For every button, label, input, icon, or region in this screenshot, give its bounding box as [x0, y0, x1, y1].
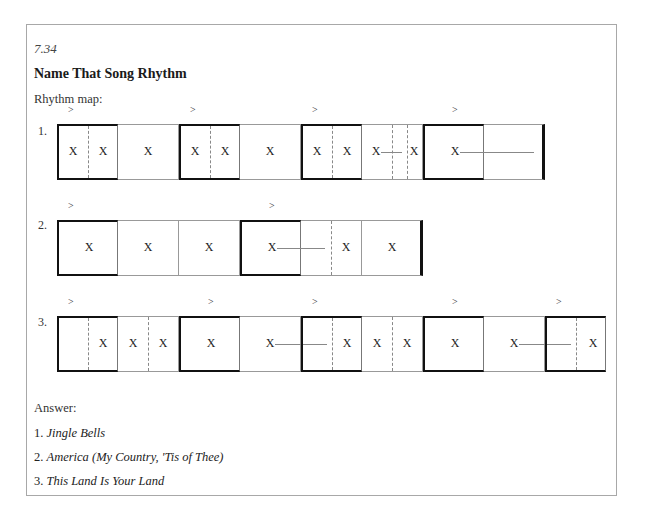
subdivision-line [88, 126, 89, 178]
beat-box: > X [240, 220, 301, 276]
beat-mark: X [372, 144, 381, 159]
beat-mark: X [589, 336, 598, 351]
subdivision-line [331, 221, 332, 275]
beat-box: X [301, 220, 362, 276]
beat-box: X [118, 220, 179, 276]
beat-mark: X [99, 336, 108, 351]
beat-box: > X X [179, 124, 240, 180]
accent-mark: > [68, 104, 74, 115]
exercise-number: 7.34 [34, 41, 57, 57]
beat-box: X [240, 124, 301, 180]
tie-line [519, 344, 545, 345]
tie-line [301, 248, 325, 249]
answer-1: 1. Jingle Bells [34, 426, 105, 441]
beat-box: > X X [301, 124, 362, 180]
beat-mark: X [85, 240, 94, 255]
answer-song: This Land Is Your Land [47, 474, 165, 488]
tie-line [547, 344, 571, 345]
beat-mark: X [313, 144, 322, 159]
subdivision-line [210, 126, 211, 178]
answer-song: America (My Country, 'Tis of Thee) [47, 450, 224, 464]
beat-box: X [118, 124, 179, 180]
answer-number: 3. [34, 474, 43, 488]
beat-mark: X [266, 336, 275, 351]
beat-box: X X [362, 124, 423, 180]
beat-box: > X [423, 124, 484, 180]
beat-box: X X [118, 316, 179, 372]
beat-mark: X [451, 336, 460, 351]
beat-mark: X [403, 336, 412, 351]
rhythm-row-2: > X X X > X X X [57, 220, 423, 276]
accent-mark: > [68, 296, 74, 307]
subdivision-line [392, 317, 393, 371]
beat-mark: X [343, 144, 352, 159]
beat-box: > X X [57, 124, 118, 180]
beat-mark: X [99, 144, 108, 159]
exercise-title: Name That Song Rhythm [34, 66, 187, 82]
beat-mark: X [221, 144, 230, 159]
accent-mark: > [68, 200, 74, 211]
accent-mark: > [452, 296, 458, 307]
tie-line [484, 152, 534, 153]
beat-box: > X [545, 316, 606, 372]
row-2-number: 2. [38, 218, 47, 233]
subdivision-line [148, 317, 149, 371]
answer-number: 1. [34, 426, 43, 440]
beat-box: X [362, 220, 423, 276]
answer-2: 2. America (My Country, 'Tis of Thee) [34, 450, 223, 465]
beat-box: X [484, 316, 545, 372]
tie-line [460, 152, 486, 153]
accent-mark: > [190, 104, 196, 115]
beat-mark: X [410, 144, 419, 159]
beat-mark: X [191, 144, 200, 159]
beat-mark: X [159, 336, 168, 351]
subdivision-line [332, 318, 333, 370]
beat-box: X X [362, 316, 423, 372]
beat-box: > X [301, 316, 362, 372]
beat-mark: X [144, 240, 153, 255]
accent-mark: > [269, 200, 275, 211]
answer-3: 3. This Land Is Your Land [34, 474, 164, 489]
beat-mark: X [144, 144, 153, 159]
tie-line [303, 344, 327, 345]
rhythm-row-3: > X X X > X X > X X X > X X > X [57, 316, 606, 372]
accent-mark: > [556, 296, 562, 307]
answer-song: Jingle Bells [47, 426, 106, 440]
subdivision-line [407, 125, 408, 179]
beat-mark: X [268, 240, 277, 255]
beat-box: > X [179, 316, 240, 372]
beat-box: > X [423, 316, 484, 372]
row-1-number: 1. [38, 124, 47, 139]
beat-mark: X [510, 336, 519, 351]
rhythm-row-1: > X X X > X X X > X X X X > X [57, 124, 545, 180]
beat-box: X [240, 316, 301, 372]
accent-mark: > [208, 296, 214, 307]
beat-mark: X [343, 336, 352, 351]
beat-mark: X [207, 336, 216, 351]
beat-mark: X [388, 240, 397, 255]
tie-line [381, 152, 402, 153]
answer-number: 2. [34, 450, 43, 464]
beat-box: X [179, 220, 240, 276]
subdivision-line [88, 318, 89, 370]
beat-box: > X [57, 316, 118, 372]
answer-label: Answer: [34, 401, 76, 416]
row-3-number: 3. [38, 315, 47, 330]
accent-mark: > [312, 104, 318, 115]
beat-mark: X [129, 336, 138, 351]
beat-mark: X [266, 144, 275, 159]
beat-box: > X [57, 220, 118, 276]
subdivision-line [576, 318, 577, 370]
beat-mark: X [342, 240, 351, 255]
tie-line [277, 248, 303, 249]
subdivision-line [332, 126, 333, 178]
accent-mark: > [312, 296, 318, 307]
beat-mark: X [451, 144, 460, 159]
beat-box [484, 124, 545, 180]
beat-mark: X [205, 240, 214, 255]
beat-mark: X [373, 336, 382, 351]
tie-line [275, 344, 301, 345]
accent-mark: > [452, 104, 458, 115]
beat-mark: X [69, 144, 78, 159]
